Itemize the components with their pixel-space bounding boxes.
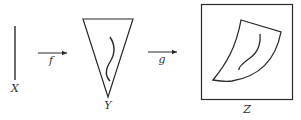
map-g: g bbox=[148, 52, 177, 66]
curve-in-y bbox=[106, 37, 114, 81]
label-x: X bbox=[10, 82, 20, 95]
label-z: Z bbox=[242, 103, 251, 116]
curved-region-z bbox=[213, 20, 281, 81]
curve-in-z bbox=[239, 34, 260, 70]
map-f: f bbox=[38, 53, 67, 67]
triangle-y bbox=[83, 19, 133, 97]
space-z: Z bbox=[202, 5, 293, 117]
label-f: f bbox=[48, 54, 55, 67]
space-y: Y bbox=[83, 19, 133, 112]
label-y: Y bbox=[104, 99, 113, 112]
label-g: g bbox=[158, 53, 165, 66]
space-x: X bbox=[10, 26, 20, 95]
box-z bbox=[202, 5, 293, 100]
diagram-canvas: X f Y g Z bbox=[0, 0, 301, 120]
